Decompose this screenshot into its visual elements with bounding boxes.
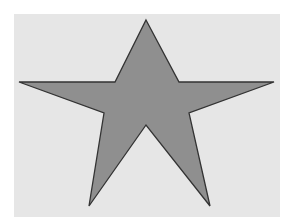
drawing [0,0,292,224]
